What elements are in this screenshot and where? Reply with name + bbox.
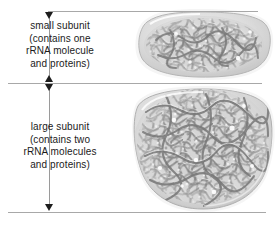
small-subunit-body [135,9,273,80]
leader-line-top [48,11,258,12]
label-large-subunit-line-2: (contains two [0,134,120,147]
label-large-subunit-line-3: rRNA molecules [0,146,120,159]
arrow-down-icon-bottom [45,204,53,211]
label-large-subunit: large subunit (contains two rRNA molecul… [0,121,120,171]
leader-line-bottom [8,212,266,213]
label-small-subunit-line-3: rRNA molecule [0,45,120,58]
label-small-subunit: small subunit (contains one rRNA molecul… [0,20,120,70]
arrow-down-icon-middle [45,84,53,91]
label-small-subunit-line-2: (contains one [0,33,120,46]
large-subunit-body [132,84,275,212]
arrow-up-icon-middle [45,75,53,82]
label-large-subunit-line-4: and proteins) [0,159,120,172]
label-small-subunit-line-1: small subunit [0,20,120,33]
arrow-down-icon-top [45,12,53,19]
label-small-subunit-line-4: and proteins) [0,58,120,71]
ribosome-diagram: small subunit (contains one rRNA molecul… [0,0,276,232]
label-large-subunit-line-1: large subunit [0,121,120,134]
